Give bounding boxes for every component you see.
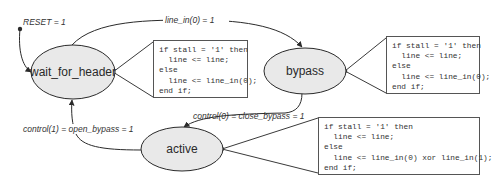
code-line: line <= line_in(0) xor line_in(1); [324, 153, 474, 163]
code-line: line <= line_in(0); [392, 72, 474, 82]
code-line: else [159, 65, 242, 75]
bypass-to-active-transition: control(0) = close_bypass = 1 [184, 93, 305, 127]
active-to-header-transition: control(1) = open_bypass = 1 [22, 100, 141, 150]
code-line: line <= line; [324, 132, 474, 142]
code-line: line <= line_in(0); [159, 76, 242, 86]
state-wait-for-header-label: wait_for_header [29, 65, 116, 79]
code-line: line <= line; [159, 55, 242, 65]
header-to-bypass-label: line_in(0) = 1 [165, 15, 215, 25]
state-bypass-label: bypass [286, 64, 324, 78]
code-note-active: if stall = '1' then line <= line;else li… [318, 117, 480, 175]
code-line: end if; [392, 82, 474, 92]
reset-label: RESET = 1 [23, 17, 66, 27]
state-active-label: active [166, 142, 198, 156]
code-note-wait-for-header: if stall = '1' then line <= line;else li… [153, 40, 248, 98]
state-bypass[interactable]: bypass [264, 48, 346, 94]
code-line: end if; [324, 163, 474, 173]
code-line: else [324, 142, 474, 152]
code-line: else [392, 61, 474, 71]
code-line: if stall = '1' then [324, 122, 474, 132]
state-active[interactable]: active [141, 127, 223, 171]
code-line: line <= line; [392, 51, 474, 61]
code-note-bypass: if stall = '1' then line <= line;else li… [386, 36, 480, 94]
bypass-to-active-label: control(0) = close_bypass = 1 [193, 111, 305, 121]
code-line: if stall = '1' then [392, 41, 474, 51]
code-line: end if; [159, 86, 242, 96]
state-wait-for-header[interactable]: wait_for_header [29, 45, 116, 99]
code-line: if stall = '1' then [159, 45, 242, 55]
active-to-header-label: control(1) = open_bypass = 1 [23, 124, 134, 134]
